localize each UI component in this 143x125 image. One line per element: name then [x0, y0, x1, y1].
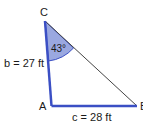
- angle-c-wedge: [45, 21, 74, 61]
- vertex-a-label: A: [39, 100, 47, 112]
- triangle-diagram: C A B 43° b = 27 ft c = 28 ft: [0, 0, 143, 125]
- angle-c-label: 43°: [51, 43, 66, 54]
- side-a-line: [45, 21, 137, 106]
- vertex-b-label: B: [140, 100, 143, 112]
- side-b-label: b = 27 ft: [4, 57, 44, 69]
- side-c-label: c = 28 ft: [72, 111, 111, 123]
- vertex-c-label: C: [40, 6, 48, 18]
